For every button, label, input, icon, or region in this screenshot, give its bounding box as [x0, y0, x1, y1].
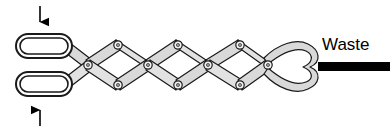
pivot-joint — [146, 63, 149, 66]
pivot-joint — [238, 83, 241, 86]
lower-chamber — [16, 72, 72, 96]
figure-root: Waste — [0, 0, 392, 132]
pivot-joint — [116, 83, 119, 86]
pivot-joint — [206, 63, 209, 66]
schematic-diagram: Waste — [0, 0, 392, 132]
pivot-joint — [116, 43, 119, 46]
pivot-joint — [176, 83, 179, 86]
pivot-joint — [238, 43, 241, 46]
waste-label: Waste — [322, 35, 370, 54]
pivot-joint — [266, 63, 269, 66]
pivot-joint — [86, 63, 89, 66]
upper-chamber — [16, 34, 72, 58]
waste-outlet-bar — [318, 62, 390, 71]
pivot-joint — [176, 43, 179, 46]
